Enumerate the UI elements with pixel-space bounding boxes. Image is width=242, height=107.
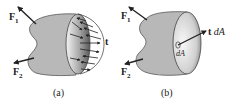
label-area-element: dA <box>176 50 185 58</box>
panel-a: F1 F2 t (a) <box>0 0 121 107</box>
label-traction-tdA: t dA <box>208 27 225 37</box>
force-f1-arrow <box>18 7 36 24</box>
force-f1-arrow <box>129 7 147 20</box>
panel-b: F1 F2 t dA dA (b) <box>121 0 242 107</box>
label-f2: F2 <box>121 67 131 80</box>
label-traction-t: t <box>105 37 108 47</box>
cut-face <box>66 14 90 74</box>
label-f1: F1 <box>9 12 19 25</box>
f1-subscript: 1 <box>127 16 131 24</box>
caption-a: (a) <box>53 88 64 98</box>
label-f1: F1 <box>121 11 131 24</box>
t-symbol: t <box>208 26 211 37</box>
f2-subscript: 2 <box>127 72 131 80</box>
caption-b: (b) <box>161 88 173 98</box>
f2-subscript: 2 <box>19 72 23 80</box>
f1-subscript: 1 <box>15 17 19 25</box>
dA-symbol: dA <box>214 26 225 37</box>
label-f2: F2 <box>13 67 23 80</box>
